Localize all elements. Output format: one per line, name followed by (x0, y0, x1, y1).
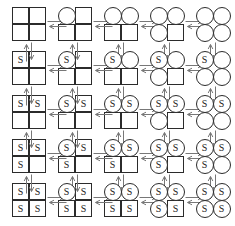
state-node-r5c4[interactable]: SSSS (150, 183, 184, 217)
state-node-r2c3[interactable]: S (104, 51, 138, 85)
subunit-br-circle-empty (213, 24, 231, 42)
substrate-label: S (35, 203, 41, 214)
subunit-tl-circle-bound: S (196, 95, 214, 113)
equilibrium-arrow-vertical-r4-c1 (23, 174, 35, 194)
subunit-tr-circle-empty (121, 7, 139, 25)
state-node-r3c3[interactable]: SS (104, 95, 138, 129)
subunit-grid: SSSS (58, 183, 92, 217)
subunit-tl-circle-bound: S (58, 95, 76, 113)
subunit-grid (196, 7, 230, 41)
subunit-br-square-empty (29, 112, 46, 129)
substrate-label: S (110, 142, 116, 153)
subunit-br-square-empty (29, 156, 46, 173)
state-node-r4c2[interactable]: SSS (58, 139, 92, 173)
substrate-label: S (156, 54, 162, 65)
state-node-r3c4[interactable]: SS (150, 95, 184, 129)
subunit-grid: SSS (58, 139, 92, 173)
subunit-grid: S (104, 51, 138, 85)
subunit-tl-circle-bound: S (58, 51, 76, 69)
subunit-bl-circle-empty (150, 24, 168, 42)
substrate-label: S (173, 98, 179, 109)
substrate-label: S (173, 186, 179, 197)
subunit-bl-circle-bound: S (150, 200, 168, 218)
subunit-grid: SSS (196, 139, 230, 173)
subunit-grid (12, 7, 46, 41)
equilibrium-arrow-vertical-r2-c1 (23, 86, 35, 106)
state-node-r5c5[interactable]: SSSS (196, 183, 230, 217)
subunit-grid: SSSS (196, 183, 230, 217)
state-node-r5c3[interactable]: SSSS (104, 183, 138, 217)
subunit-tr-circle-bound: S (167, 183, 185, 201)
subunit-tl-circle-bound: S (58, 183, 76, 201)
subunit-tl-circle-bound: S (150, 183, 168, 201)
substrate-label: S (219, 186, 225, 197)
substrate-label: S (156, 98, 162, 109)
substrate-label: S (110, 98, 116, 109)
subunit-tl-circle-bound: S (58, 139, 76, 157)
subunit-bl-circle-empty (196, 24, 214, 42)
subunit-tl-circle-bound: S (196, 51, 214, 69)
subunit-bl-square-bound: S (12, 200, 29, 217)
substrate-label: S (127, 98, 133, 109)
subunit-grid: SSSS (104, 183, 138, 217)
state-node-r3c2[interactable]: SS (58, 95, 92, 129)
state-node-r1c1[interactable] (12, 7, 46, 41)
subunit-tr-circle-empty (213, 7, 231, 25)
substrate-label: S (127, 142, 133, 153)
subunit-tl-circle-empty (104, 7, 122, 25)
subunit-br-square-empty (75, 24, 92, 41)
substrate-label: S (202, 54, 208, 65)
subunit-bl-circle-bound: S (196, 200, 214, 218)
subunit-bl-circle-bound: S (150, 156, 168, 174)
state-node-r1c5[interactable] (196, 7, 230, 41)
substrate-label: S (202, 203, 208, 214)
subunit-br-square-bound: S (75, 200, 92, 217)
state-node-r2c5[interactable]: S (196, 51, 230, 85)
subunit-tl-circle-bound: S (150, 51, 168, 69)
substrate-label: S (202, 159, 208, 170)
subunit-tr-circle-empty (167, 51, 185, 69)
substrate-label: S (219, 203, 225, 214)
subunit-br-square-empty (121, 112, 138, 129)
subunit-br-circle-bound: S (213, 200, 231, 218)
state-node-r3c5[interactable]: SS (196, 95, 230, 129)
subunit-br-square-empty (167, 112, 184, 129)
state-node-r2c2[interactable]: S (58, 51, 92, 85)
subunit-tl-circle-bound: S (196, 183, 214, 201)
subunit-br-square-empty (75, 68, 92, 85)
subunit-br-square-empty (121, 156, 138, 173)
substrate-label: S (173, 142, 179, 153)
subunit-bl-circle-empty (196, 68, 214, 86)
substrate-label: S (202, 142, 208, 153)
subunit-tr-circle-bound: S (121, 139, 139, 157)
subunit-tr-circle-bound: S (213, 183, 231, 201)
subunit-bl-circle-empty (150, 68, 168, 86)
subunit-grid: S (58, 51, 92, 85)
state-node-r2c4[interactable]: S (150, 51, 184, 85)
subunit-bl-square-bound: S (12, 156, 29, 173)
subunit-tl-circle-bound: S (104, 51, 122, 69)
substrate-label: S (64, 186, 70, 197)
substrate-label: S (156, 159, 162, 170)
substrate-label: S (81, 98, 87, 109)
subunit-bl-square-empty (12, 68, 29, 85)
state-node-r1c2[interactable] (58, 7, 92, 41)
substrate-label: S (156, 186, 162, 197)
subunit-br-square-empty (75, 156, 92, 173)
state-node-r4c4[interactable]: SSS (150, 139, 184, 173)
subunit-br-circle-empty (213, 112, 231, 130)
state-node-r4c5[interactable]: SSS (196, 139, 230, 173)
state-node-r5c2[interactable]: SSSS (58, 183, 92, 217)
subunit-grid: SSS (150, 139, 184, 173)
subunit-grid: SS (58, 95, 92, 129)
substrate-label: S (81, 203, 87, 214)
subunit-grid (150, 7, 184, 41)
substrate-label: S (64, 142, 70, 153)
subunit-tl-circle-bound: S (104, 183, 122, 201)
state-node-r4c3[interactable]: SSS (104, 139, 138, 173)
state-node-r1c3[interactable] (104, 7, 138, 41)
subunit-tl-circle-bound: S (196, 139, 214, 157)
state-node-r1c4[interactable] (150, 7, 184, 41)
equilibrium-arrow-vertical-r3-c1 (23, 130, 35, 150)
subunit-tl-square-empty (12, 7, 29, 24)
